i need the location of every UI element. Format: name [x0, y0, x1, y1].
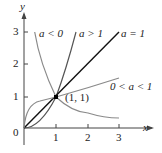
label-a-greater-1: a > 1 — [79, 27, 103, 39]
y-axis-label: y — [19, 0, 25, 12]
x-tick-label-1: 1 — [53, 131, 59, 143]
origin-label: 0 — [13, 126, 19, 138]
y-tick-label-2: 2 — [13, 57, 19, 69]
y-axis-arrow-icon — [22, 12, 27, 19]
label-a-between-0-1: 0 < a < 1 — [110, 80, 152, 92]
y-tick-label-3: 3 — [13, 25, 19, 37]
x-axis-label: x — [142, 121, 148, 133]
x-tick-label-2: 2 — [85, 131, 91, 143]
y-tick-label-1: 1 — [13, 90, 19, 102]
label-a-equals-1: a = 1 — [121, 27, 145, 39]
x-axis-arrow-icon — [147, 126, 154, 131]
curve-a-between-0-1 — [24, 78, 119, 128]
x-tick-label-3: 3 — [116, 131, 122, 143]
curve-a-greater-1 — [24, 32, 76, 128]
label-a-negative: a < 0 — [39, 27, 63, 39]
power-function-chart: y x 0 1 2 3 1 2 3 a < 0 a > 1 a = 1 0 < … — [0, 0, 162, 153]
intersection-point — [54, 95, 58, 99]
point-label: (1, 1) — [65, 91, 89, 104]
